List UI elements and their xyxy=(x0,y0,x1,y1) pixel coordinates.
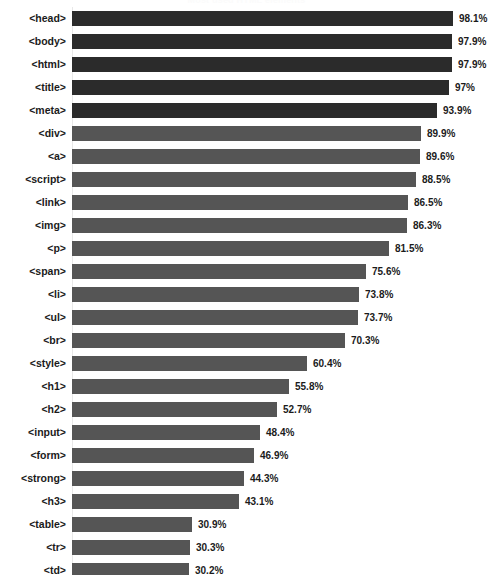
bar-track: 30.2% xyxy=(72,559,493,575)
category-label: <style> xyxy=(0,352,66,375)
category-label: <td> xyxy=(0,559,66,575)
bar-value-label: 46.9% xyxy=(254,448,288,463)
bar xyxy=(72,11,453,26)
category-label: <h1> xyxy=(0,375,66,398)
category-label: <input> xyxy=(0,421,66,444)
bar xyxy=(72,471,244,486)
bar-value-label: 97% xyxy=(449,80,475,95)
category-label: <li> xyxy=(0,283,66,306)
category-label: <img> xyxy=(0,214,66,237)
bar-row: <input>48.4% xyxy=(0,421,493,444)
bar-row: <br>70.3% xyxy=(0,329,493,352)
bar-row: <script>88.5% xyxy=(0,168,493,191)
bar xyxy=(72,57,452,72)
category-label: <span> xyxy=(0,260,66,283)
bar-row: <li>73.8% xyxy=(0,283,493,306)
bar-value-label: 30.2% xyxy=(189,563,223,575)
bar-row: <form>46.9% xyxy=(0,444,493,467)
bar xyxy=(72,241,389,256)
bar-row: <h2>52.7% xyxy=(0,398,493,421)
bar xyxy=(72,540,190,555)
bar-row: <link>86.5% xyxy=(0,191,493,214)
bar-row: <head>98.1% xyxy=(0,7,493,30)
bar-track: 86.5% xyxy=(72,191,493,214)
bar-track: 55.8% xyxy=(72,375,493,398)
chart-plot-area: <head>98.1%<body>97.9%<html>97.9%<title>… xyxy=(0,7,493,575)
bar-value-label: 44.3% xyxy=(244,471,278,486)
bar xyxy=(72,448,254,463)
category-label: <html> xyxy=(0,53,66,76)
bar-row: <a>89.6% xyxy=(0,145,493,168)
bar-chart: Most used HTML elements <head>98.1%<body… xyxy=(0,0,493,575)
bar-track: 88.5% xyxy=(72,168,493,191)
bar-value-label: 73.8% xyxy=(359,287,393,302)
bar xyxy=(72,517,192,532)
bar-track: 98.1% xyxy=(72,7,493,30)
category-label: <h2> xyxy=(0,398,66,421)
bar-value-label: 89.6% xyxy=(420,149,454,164)
bar-track: 97.9% xyxy=(72,53,493,76)
chart-title: Most used HTML elements xyxy=(0,0,493,4)
bar-value-label: 97.9% xyxy=(452,34,486,49)
bar-value-label: 70.3% xyxy=(345,333,379,348)
bar-track: 48.4% xyxy=(72,421,493,444)
bar xyxy=(72,34,452,49)
bar-value-label: 30.3% xyxy=(190,540,224,555)
category-label: <a> xyxy=(0,145,66,168)
bar xyxy=(72,287,359,302)
bar-track: 93.9% xyxy=(72,99,493,122)
bar-track: 46.9% xyxy=(72,444,493,467)
bar-track: 30.9% xyxy=(72,513,493,536)
bar-value-label: 75.6% xyxy=(366,264,400,279)
bar-track: 52.7% xyxy=(72,398,493,421)
bar-row: <h1>55.8% xyxy=(0,375,493,398)
bar xyxy=(72,80,449,95)
category-label: <script> xyxy=(0,168,66,191)
bar-row: <style>60.4% xyxy=(0,352,493,375)
bar-track: 75.6% xyxy=(72,260,493,283)
bar-row: <div>89.9% xyxy=(0,122,493,145)
bar xyxy=(72,126,421,141)
bar-row: <strong>44.3% xyxy=(0,467,493,490)
bar-value-label: 86.3% xyxy=(407,218,441,233)
bar-row: <tr>30.3% xyxy=(0,536,493,559)
category-label: <p> xyxy=(0,237,66,260)
bar-value-label: 86.5% xyxy=(408,195,442,210)
bar-row: <title>97% xyxy=(0,76,493,99)
bar xyxy=(72,103,437,118)
bar xyxy=(72,264,366,279)
bar-value-label: 73.7% xyxy=(358,310,392,325)
bar xyxy=(72,310,358,325)
bar xyxy=(72,379,289,394)
bar-row: <table>30.9% xyxy=(0,513,493,536)
category-label: <form> xyxy=(0,444,66,467)
bar-value-label: 89.9% xyxy=(421,126,455,141)
bar-value-label: 60.4% xyxy=(307,356,341,371)
bar-track: 81.5% xyxy=(72,237,493,260)
category-label: <div> xyxy=(0,122,66,145)
bar-row: <td>30.2% xyxy=(0,559,493,575)
bar xyxy=(72,333,345,348)
category-label: <tr> xyxy=(0,536,66,559)
bar-value-label: 88.5% xyxy=(416,172,450,187)
bar-track: 73.8% xyxy=(72,283,493,306)
category-label: <ul> xyxy=(0,306,66,329)
bar-row: <span>75.6% xyxy=(0,260,493,283)
bar-track: 97.9% xyxy=(72,30,493,53)
bar-track: 44.3% xyxy=(72,467,493,490)
bar-value-label: 55.8% xyxy=(289,379,323,394)
bar xyxy=(72,494,239,509)
bar-row: <html>97.9% xyxy=(0,53,493,76)
category-label: <table> xyxy=(0,513,66,536)
bar-value-label: 97.9% xyxy=(452,57,486,72)
bar-value-label: 81.5% xyxy=(389,241,423,256)
category-label: <br> xyxy=(0,329,66,352)
bar-row: <body>97.9% xyxy=(0,30,493,53)
category-label: <h3> xyxy=(0,490,66,513)
bar-value-label: 30.9% xyxy=(192,517,226,532)
bar xyxy=(72,425,260,440)
bar xyxy=(72,402,277,417)
bar-row: <h3>43.1% xyxy=(0,490,493,513)
bar-track: 89.6% xyxy=(72,145,493,168)
bar-value-label: 52.7% xyxy=(277,402,311,417)
